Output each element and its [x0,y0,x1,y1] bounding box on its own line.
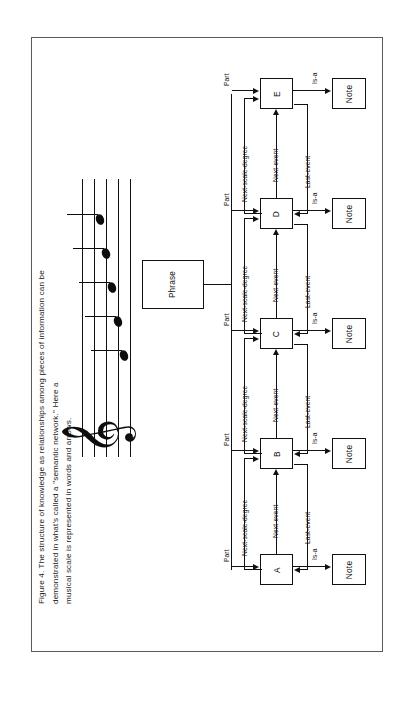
arrowhead-is-a-a [325,564,331,570]
edge-label-is-a: Is-a [311,192,318,204]
edge-is-a-b [293,450,326,451]
node-pitch-c[interactable]: C [260,318,293,349]
phrase-trunk-spine [231,94,232,570]
edge-part-c [232,330,254,331]
arrowhead-last-event-a [294,567,300,573]
edge-last-event-d-c-out [294,224,308,225]
edge-label-is-a: Is-a [311,72,318,84]
edge-label-last-event: Last-event [304,276,311,308]
arrowhead-is-a-b [325,448,331,454]
arrowhead-last-event-d [294,211,300,217]
edge-label-is-a: Is-a [311,548,318,560]
edge-is-a-e [293,90,326,91]
edge-label-last-event: Last-event [304,396,311,428]
edge-nsd-a-b-in [244,569,262,570]
page-sheet-border: Figure 4. The structure of knowledge as … [31,37,383,652]
edge-last-event-e-d-in [300,213,308,214]
edge-label-part: Part [223,313,230,326]
node-note-label: Note [344,324,354,343]
edge-nsd-b-c-in [244,453,262,454]
node-note-c[interactable]: Note [332,318,366,349]
edge-last-event-b-a-out [294,464,308,465]
edge-part-e [232,90,254,91]
arrowhead-part-e [253,88,259,94]
arrowhead-next-event-d [273,229,279,235]
edge-label-next-scale-degree: Next-scale-degree [241,266,248,322]
node-note-label: Note [344,84,354,103]
node-note-a[interactable]: Note [332,554,366,585]
edge-label-next-scale-degree: Next-scale-degree [241,386,248,442]
arrowhead-nsd-c [253,336,259,342]
node-note-label: Note [344,204,354,223]
node-pitch-d-label: D [272,210,282,216]
arrowhead-last-event-c [294,331,300,337]
node-pitch-c-label: C [272,330,282,336]
node-phrase[interactable]: Phrase [142,260,204,309]
arrowhead-is-a-d [325,208,331,214]
edge-is-a-a [293,566,326,567]
node-pitch-e-label: E [271,91,281,97]
node-phrase-label: Phrase [169,271,178,298]
node-pitch-b-label: B [271,451,281,457]
node-note-b[interactable]: Note [332,438,366,469]
phrase-trunk-stub [204,284,232,285]
edge-nsd-c-d-in [244,333,262,334]
node-note-label: Note [344,560,354,579]
edge-label-last-event: Last-event [304,512,311,544]
node-pitch-a-label: A [271,567,281,573]
node-pitch-b[interactable]: B [260,438,293,469]
edge-label-next-scale-degree: Next-scale-degree [241,500,248,556]
edge-last-event-d-c-in [300,333,308,334]
edge-last-event-e-d-out [294,104,308,105]
node-note-d[interactable]: Note [332,198,366,229]
edge-part-d [232,210,254,211]
arrowhead-nsd-b [253,456,259,462]
node-pitch-a[interactable]: A [260,554,293,585]
edge-is-a-d [293,210,326,211]
edge-part-b [232,450,254,451]
edge-is-a-c [293,330,326,331]
arrowhead-nsd-d [253,216,259,222]
edge-label-next-event: Next-event [272,505,279,538]
edge-label-is-a: Is-a [311,432,318,444]
edge-label-next-event: Next-event [272,389,279,422]
edge-nsd-d-e-in [244,213,262,214]
edge-last-event-c-b-in [300,453,308,454]
arrowhead-last-event-b [294,451,300,457]
figure-page: Figure 4. The structure of knowledge as … [0,0,407,708]
edge-label-is-a: Is-a [311,312,318,324]
edge-label-next-event: Next-event [272,149,279,182]
edge-label-next-event: Next-event [272,269,279,302]
edge-last-event-c-b-out [294,344,308,345]
node-pitch-d[interactable]: D [260,198,293,229]
edge-last-event-b-a-in [300,569,308,570]
arrowhead-next-event-b [273,469,279,475]
arrowhead-next-event-c [273,349,279,355]
semantic-network-diagram: Phrase E D C B A Note [32,38,384,653]
arrowhead-is-a-e [325,88,331,94]
node-note-e[interactable]: Note [332,78,366,109]
edge-label-part: Part [223,433,230,446]
node-note-label: Note [344,444,354,463]
edge-label-part: Part [223,193,230,206]
edge-label-part: Part [223,549,230,562]
arrowhead-is-a-c [325,328,331,334]
edge-label-part: Part [223,73,230,86]
node-pitch-e[interactable]: E [260,78,293,109]
edge-label-last-event: Last-event [304,156,311,188]
arrowhead-nsd-e [253,96,259,102]
arrowhead-next-event-e [273,109,279,115]
edge-label-next-scale-degree: Next-scale-degree [241,146,248,202]
edge-part-a [232,566,254,567]
